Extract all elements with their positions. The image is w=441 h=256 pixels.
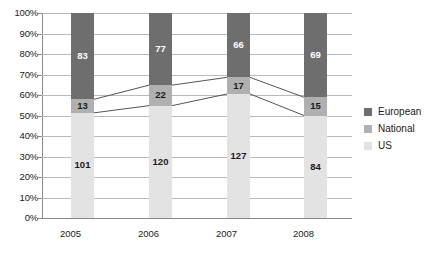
y-tick-label-100: 100% [4,8,38,18]
legend-item-us[interactable]: US [364,137,440,154]
bar-segment-label: 84 [310,162,321,172]
y-tick-label-80: 80% [4,49,38,59]
bar-segment-label: 127 [231,151,247,161]
bar-segment-european-2007[interactable]: 66 [227,13,250,77]
bar-segment-label: 13 [77,101,88,111]
legend-swatch-icon [364,108,372,116]
x-axis-baseline [42,218,352,219]
y-tick-label-20: 20% [4,172,38,182]
legend-label: European [378,106,421,117]
bar-segment-european-2008[interactable]: 69 [304,13,327,97]
y-tick-label-0: 0% [4,213,38,223]
legend-item-national[interactable]: National [364,120,440,137]
legend-swatch-icon [364,125,372,133]
bar-segment-label: 120 [153,157,169,167]
x-tick-label-2008: 2008 [274,228,334,239]
bar-segment-label: 77 [155,44,166,54]
x-tick-label-2007: 2007 [197,228,257,239]
y-tick-label-10: 10% [4,193,38,203]
legend-item-european[interactable]: European [364,103,440,120]
bar-segment-national-2006[interactable]: 22 [149,85,172,106]
plot-area: 83 13 101 77 22 120 66 [42,13,352,218]
bar-segment-label: 66 [233,40,244,50]
y-tick-label-30: 30% [4,152,38,162]
bar-segment-european-2005[interactable]: 83 [71,13,94,99]
y-tick-label-50: 50% [4,111,38,121]
legend-label: US [378,140,392,151]
legend-swatch-icon [364,142,372,150]
bar-segment-label: 83 [77,51,88,61]
bar-segment-us-2006[interactable]: 120 [149,106,172,218]
bar-segment-us-2008[interactable]: 84 [304,116,327,219]
bar-segment-label: 69 [310,50,321,60]
bar-segment-label: 101 [75,160,91,170]
chart-legend: European National US [364,103,440,154]
bar-segment-label: 17 [233,81,244,91]
bar-segment-us-2005[interactable]: 101 [71,113,94,218]
y-tick-label-40: 40% [4,131,38,141]
x-tick-label-2005: 2005 [41,228,101,239]
stacked-column-chart: 100% 90% 80% 70% 60% 50% 40% 30% 20% 10%… [0,0,441,256]
y-tick-label-70: 70% [4,70,38,80]
x-tick-label-2006: 2006 [119,228,179,239]
legend-label: National [378,123,415,134]
bar-segment-label: 22 [155,90,166,100]
y-axis-labels: 100% 90% 80% 70% 60% 50% 40% 30% 20% 10%… [0,0,38,256]
bar-segment-label: 15 [310,101,321,111]
y-tick-label-90: 90% [4,29,38,39]
y-tick-label-60: 60% [4,90,38,100]
bar-segment-us-2007[interactable]: 127 [227,94,250,218]
bar-segment-national-2007[interactable]: 17 [227,77,250,94]
bar-segment-national-2008[interactable]: 15 [304,97,327,115]
bar-segment-european-2006[interactable]: 77 [149,13,172,85]
bar-segment-national-2005[interactable]: 13 [71,99,94,113]
